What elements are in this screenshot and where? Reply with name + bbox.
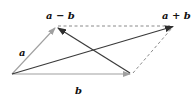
label-a: a <box>19 48 25 58</box>
vector-difference-arrow <box>58 28 130 73</box>
dashed-right-edge <box>133 28 172 73</box>
label-b: b <box>75 86 82 96</box>
label-sum: a + b <box>162 11 191 21</box>
label-difference: a − b <box>46 11 75 21</box>
